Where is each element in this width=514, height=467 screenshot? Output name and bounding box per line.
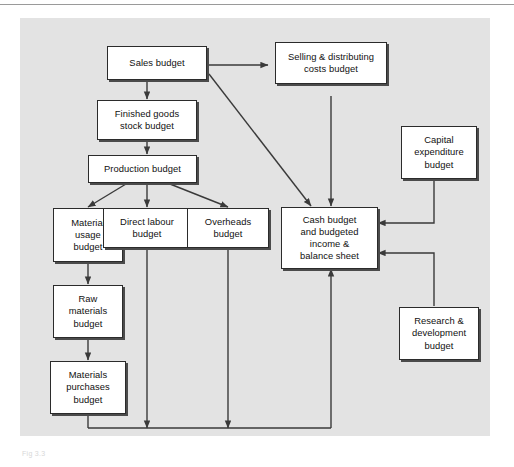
node-raw-materials-budget[interactable]: Raw materials budget [53,285,123,338]
node-label-line: budget [66,394,110,406]
node-label-line: costs budget [288,63,374,75]
node-label-line: Overheads [205,216,251,228]
node-label-line: purchases [66,381,110,393]
node-label-line: budget [412,340,466,352]
figure-caption: Fig 3.3 [22,450,46,457]
node-label: Material usage budget [71,217,105,254]
node-label: Raw materials budget [69,293,107,330]
node-label-line: stock budget [115,120,179,132]
node-label-line: and budgeted [300,226,359,238]
node-label: Production budget [104,163,181,175]
node-label: Selling & distributing costs budget [288,51,374,75]
edge-research-to-cash [378,253,434,306]
node-cash-budget-and-budgeted-income-balance-sheet[interactable]: Cash budget and budgeted income & balanc… [281,207,378,269]
edge-sales-to-cash [209,74,311,206]
node-label-line: usage [71,229,105,241]
node-label: Sales budget [129,57,184,69]
node-direct-labour-budget[interactable]: Direct labour budget [103,208,191,248]
node-label-line: expenditure [414,146,464,158]
node-label-line: materials [69,305,107,317]
node-label-line: Selling & distributing [288,51,374,63]
node-selling-distributing-costs-budget[interactable]: Selling & distributing costs budget [275,42,387,84]
node-label: Research & development budget [412,315,466,352]
edge-production-to-material-usage [88,184,126,207]
figure-panel: Sales budget Selling & distributing cost… [20,18,490,436]
node-label-line: development [412,327,466,339]
node-sales-budget[interactable]: Sales budget [107,46,207,80]
node-label-line: Finished goods [115,108,179,120]
node-capital-expenditure-budget[interactable]: Capital expenditure budget [401,126,477,179]
node-label-line: budget [414,159,464,171]
node-label-line: Direct labour [120,216,174,228]
node-label-line: budget [205,228,251,240]
node-label-line: balance sheet [300,250,359,262]
node-label-line: Raw [69,293,107,305]
edge-capital-to-cash [378,179,434,223]
node-label-line: Materials [66,369,110,381]
node-label-line: Capital [414,134,464,146]
node-label-line: budget [69,318,107,330]
node-label: Finished goods stock budget [115,108,179,132]
node-label-line: budget [120,228,174,240]
page-divider-rule [0,4,514,5]
node-materials-purchases-budget[interactable]: Materials purchases budget [50,361,126,414]
node-label-line: Material [71,217,105,229]
node-label: Capital expenditure budget [414,134,464,171]
node-label: Direct labour budget [120,216,174,240]
node-overheads-budget[interactable]: Overheads budget [187,208,269,248]
node-label-line: income & [300,238,359,250]
node-label: Cash budget and budgeted income & balanc… [300,214,359,263]
node-production-budget[interactable]: Production budget [88,155,197,183]
node-label-line: Cash budget [300,214,359,226]
node-label-line: Research & [412,315,466,327]
node-research-development-budget[interactable]: Research & development budget [399,307,479,360]
node-label: Materials purchases budget [66,369,110,406]
node-finished-goods-stock-budget[interactable]: Finished goods stock budget [97,100,197,140]
node-label: Overheads budget [205,216,251,240]
edge-production-to-overheads [170,184,228,207]
node-label-line: budget [71,241,105,253]
